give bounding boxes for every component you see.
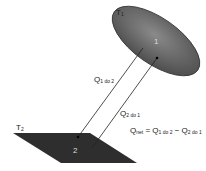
surface-2-number: 2 [73,146,77,155]
temp-label-t1: T1 [116,9,124,17]
term1-subscript: 1 do 2 [159,129,173,135]
equals-sign: = [143,126,152,135]
q12-subscript: 1 do 2 [100,78,114,84]
temp-label-t2: T2 [16,124,24,132]
ray-endpoint-dot [156,57,159,60]
surface-1-number: 1 [154,37,158,46]
q-2-to-1-label: Q2 do 1 [120,110,140,118]
net-heat-equation: Qnet = Q1 do 2 − Q2 do 1 [130,127,202,135]
q21-subscript: 2 do 1 [126,112,140,118]
term2-subscript: 2 do 1 [188,129,202,135]
ray-endpoint-dot [77,136,80,139]
q-1-to-2-label: Q1 do 2 [94,76,114,84]
t2-subscript: 2 [21,126,24,132]
diagram-canvas: T1 1 T2 2 Q1 do 2 Q2 do 1 Qnet = Q1 do 2… [0,0,206,171]
ray-1-to-2 [78,48,143,137]
t1-subscript: 1 [121,11,124,17]
minus-sign: − [172,126,181,135]
diagram-graphics [0,0,206,171]
